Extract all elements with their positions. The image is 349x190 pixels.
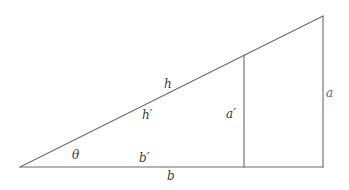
similar-triangles-diagram: h h′ a′ a θ b′ b [0, 0, 349, 190]
label-theta: θ [72, 148, 80, 162]
label-a: a [326, 86, 333, 100]
label-b: b [167, 169, 175, 183]
label-h: h [164, 77, 172, 91]
label-h-prime: h′ [142, 108, 153, 122]
label-a-prime: a′ [226, 107, 236, 121]
outer-hypotenuse-line [20, 16, 323, 167]
label-b-prime: b′ [139, 151, 150, 165]
